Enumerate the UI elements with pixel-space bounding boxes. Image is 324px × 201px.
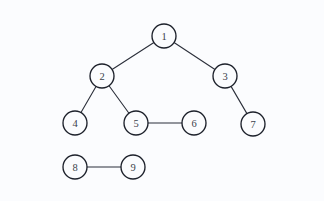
graph-node-label-4: 4 — [72, 118, 78, 129]
node-layer: 123456789 — [63, 24, 265, 179]
graph-edge-2-4 — [81, 86, 96, 112]
graph-node-7[interactable]: 7 — [241, 112, 265, 136]
graph-node-9[interactable]: 9 — [121, 155, 145, 179]
graph-edge-1-3 — [174, 43, 215, 70]
graph-edge-3-7 — [231, 86, 247, 113]
diagram-canvas: 123456789 — [0, 0, 324, 201]
graph-node-label-1: 1 — [161, 31, 166, 42]
graph-node-5[interactable]: 5 — [124, 111, 148, 135]
graph-node-label-8: 8 — [72, 162, 77, 173]
graph-figure: 123456789 — [0, 0, 324, 201]
graph-edge-1-2 — [112, 43, 154, 70]
graph-node-3[interactable]: 3 — [213, 64, 237, 88]
graph-node-2[interactable]: 2 — [90, 64, 114, 88]
edge-layer — [81, 43, 247, 167]
graph-node-6[interactable]: 6 — [182, 111, 206, 135]
graph-node-1[interactable]: 1 — [152, 24, 176, 48]
graph-node-4[interactable]: 4 — [63, 111, 87, 135]
graph-node-label-9: 9 — [130, 162, 135, 173]
graph-edge-2-5 — [109, 86, 129, 114]
graph-node-label-7: 7 — [250, 119, 255, 130]
graph-node-label-6: 6 — [191, 118, 196, 129]
graph-node-label-5: 5 — [133, 118, 138, 129]
graph-node-8[interactable]: 8 — [63, 155, 87, 179]
graph-node-label-2: 2 — [99, 71, 104, 82]
graph-node-label-3: 3 — [222, 71, 227, 82]
